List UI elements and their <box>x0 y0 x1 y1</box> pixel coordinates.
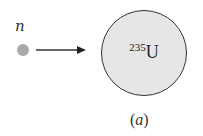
figure-caption: (a) <box>130 111 149 129</box>
mass-number: 235 <box>129 41 146 53</box>
neutron-label: n <box>15 19 25 34</box>
nucleus-label: 235U <box>102 41 186 63</box>
neutron-particle <box>17 44 29 56</box>
element-symbol: U <box>146 42 159 62</box>
uranium-nucleus: 235U <box>101 10 187 96</box>
caption-close: ) <box>143 111 148 128</box>
arrow-right-icon <box>35 44 87 56</box>
